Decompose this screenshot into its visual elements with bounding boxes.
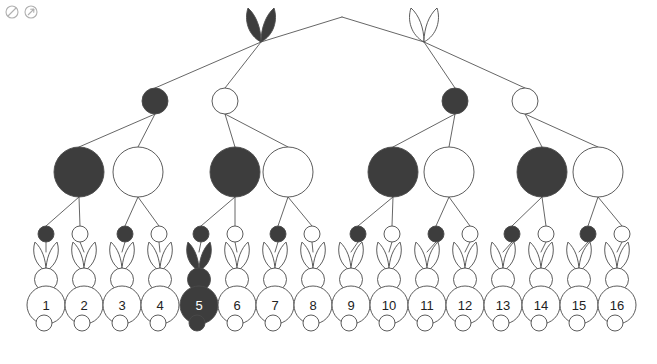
rabbit-ear <box>247 8 261 42</box>
tree-node-rabbit[interactable]: 7 <box>256 242 294 331</box>
rabbit-tail <box>493 315 509 331</box>
tree-node-rabbit[interactable]: 4 <box>141 242 179 331</box>
node-circle <box>193 226 209 242</box>
tree-node-rabbit[interactable]: 9 <box>332 242 370 331</box>
tree-node-circle[interactable] <box>614 226 630 242</box>
node-circle <box>38 226 54 242</box>
tree-node-ear-pair[interactable] <box>247 8 276 42</box>
tree-node-rabbit[interactable]: 10 <box>370 242 408 331</box>
tree-node-circle[interactable] <box>428 226 444 242</box>
tree-node-circle[interactable] <box>462 226 478 242</box>
tree-node-circle[interactable] <box>54 147 104 197</box>
node-circle <box>384 226 400 242</box>
node-circle <box>72 226 88 242</box>
rabbit-tail <box>36 315 52 331</box>
tree-node-circle[interactable] <box>38 226 54 242</box>
tree-edge <box>138 197 159 226</box>
node-circle <box>424 147 474 197</box>
rabbit-ear <box>34 242 46 271</box>
tree-node-circle[interactable] <box>212 88 238 114</box>
rabbit-ear <box>110 242 122 271</box>
tree-node-circle[interactable] <box>304 226 320 242</box>
node-circle <box>504 226 520 242</box>
tree-node-circle[interactable] <box>263 147 313 197</box>
tree-node-rabbit[interactable]: 13 <box>484 242 522 331</box>
rabbit-ear <box>617 242 629 271</box>
node-circle <box>212 88 238 114</box>
tree-edge <box>393 114 455 147</box>
rabbit-ear <box>415 242 427 271</box>
tree-edge <box>598 197 622 226</box>
rabbit-tail <box>189 315 205 331</box>
tree-edge <box>46 197 79 226</box>
tree-node-circle[interactable] <box>142 88 168 114</box>
tree-node-circle[interactable] <box>580 226 596 242</box>
tree-node-circle[interactable] <box>424 147 474 197</box>
rabbit-number-label: 11 <box>420 298 434 313</box>
tree-edge <box>125 197 138 226</box>
tree-node-circle[interactable] <box>113 147 163 197</box>
rabbit-tail <box>74 315 90 331</box>
rabbit-ear <box>160 242 172 271</box>
rabbit-ear <box>187 242 199 271</box>
tree-edge <box>275 242 278 252</box>
rabbit-ear <box>237 242 249 271</box>
tree-node-rabbit[interactable]: 6 <box>218 242 256 331</box>
tree-edge <box>542 197 546 226</box>
rabbit-ear <box>84 242 96 271</box>
tree-edge <box>512 197 542 226</box>
rabbit-number-label: 2 <box>80 298 87 313</box>
node-circle <box>462 226 478 242</box>
rabbit-number-label: 5 <box>195 298 202 313</box>
tree-edge <box>159 242 160 252</box>
tree-node-rabbit[interactable]: 3 <box>103 242 141 331</box>
tree-node-rabbit[interactable]: 15 <box>560 242 598 331</box>
tree-edge <box>79 114 155 147</box>
tree-node-ear-pair[interactable] <box>410 8 439 42</box>
rabbit-tail <box>150 315 166 331</box>
tree-edge <box>525 114 598 147</box>
rabbit-ear <box>410 8 424 42</box>
tree-edge <box>449 114 455 147</box>
rabbit-number-label: 8 <box>309 298 316 313</box>
tree-node-circle[interactable] <box>270 226 286 242</box>
tree-node-circle[interactable] <box>117 226 133 242</box>
tree-node-rabbit[interactable]: 8 <box>294 242 332 331</box>
tree-node-rabbit[interactable]: 16 <box>598 242 636 331</box>
tree-node-circle[interactable] <box>72 226 88 242</box>
tree-node-circle[interactable] <box>573 147 623 197</box>
tree-node-rabbit[interactable]: 12 <box>446 242 484 331</box>
node-circle <box>573 147 623 197</box>
node-circle <box>227 226 243 242</box>
tree-node-circle[interactable] <box>350 226 366 242</box>
tree-node-circle[interactable] <box>384 226 400 242</box>
tree-node-circle[interactable] <box>227 226 243 242</box>
tree-node-rabbit[interactable]: 11 <box>408 242 446 331</box>
tree-node-circle[interactable] <box>442 88 468 114</box>
rabbit-ear <box>148 242 160 271</box>
tree-node-rabbit[interactable]: 1 <box>27 242 65 331</box>
tree-node-rabbit[interactable]: 14 <box>522 242 560 331</box>
tree-node-circle[interactable] <box>210 147 260 197</box>
tree-node-circle[interactable] <box>504 226 520 242</box>
tree-node-circle[interactable] <box>512 88 538 114</box>
tree-node-circle[interactable] <box>368 147 418 197</box>
rabbit-number-label: 4 <box>156 298 163 313</box>
tree-node-rabbit[interactable]: 2 <box>65 242 103 331</box>
node-circle <box>428 226 444 242</box>
rabbit-number-label: 7 <box>271 298 278 313</box>
node-circle <box>54 147 104 197</box>
node-circle <box>580 226 596 242</box>
tree-node-rabbit[interactable]: 5 <box>180 242 218 331</box>
tree-node-circle[interactable] <box>193 226 209 242</box>
rabbit-tail <box>455 315 471 331</box>
rabbit-ear <box>491 242 503 271</box>
tree-edge <box>436 197 449 226</box>
tree-node-circle[interactable] <box>517 147 567 197</box>
tree-edge <box>288 197 312 226</box>
rabbit-ear <box>261 8 275 42</box>
tree-node-circle[interactable] <box>538 226 554 242</box>
node-circle <box>350 226 366 242</box>
node-circle <box>538 226 554 242</box>
tree-node-circle[interactable] <box>151 226 167 242</box>
